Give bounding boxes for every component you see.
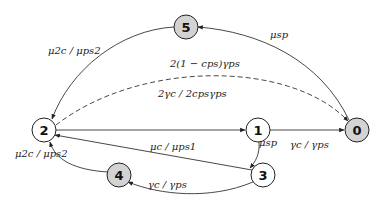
edge-0-to-5 <box>198 27 349 120</box>
node-0: 0 <box>345 118 369 142</box>
edge-label-3-4: γc / γps <box>148 179 187 190</box>
edge-label-1-0: γc / γps <box>290 139 329 150</box>
edge-label-2-0: 2(1 − cps)γps <box>169 58 240 69</box>
svg-text:2: 2 <box>39 123 48 138</box>
svg-text:1: 1 <box>253 123 262 138</box>
edge-5-to-2 <box>52 27 174 119</box>
node-3: 3 <box>251 163 275 187</box>
edge-label-4-2: μ2c / μps2 <box>15 148 68 159</box>
edge-3-to-4 <box>128 182 253 194</box>
node-4: 4 <box>107 163 131 187</box>
svg-text:0: 0 <box>352 123 361 138</box>
edge-2-to-0-dashed <box>56 76 348 125</box>
node-5: 5 <box>174 15 198 39</box>
svg-text:5: 5 <box>181 20 190 35</box>
node-2: 2 <box>32 118 56 142</box>
edge-label-0-5: μsp <box>270 29 289 40</box>
edge-label-3-2: μc / μps1 <box>150 141 196 152</box>
state-diagram: μsp μ2c / μps2 2(1 − cps)γps 2γc / 2cpsγ… <box>0 0 387 202</box>
node-1: 1 <box>246 118 270 142</box>
edge-label-2-1: 2γc / 2cpsγps <box>157 88 227 99</box>
svg-text:3: 3 <box>258 168 267 183</box>
edge-label-5-2: μ2c / μps2 <box>48 45 101 56</box>
svg-text:4: 4 <box>114 168 123 183</box>
